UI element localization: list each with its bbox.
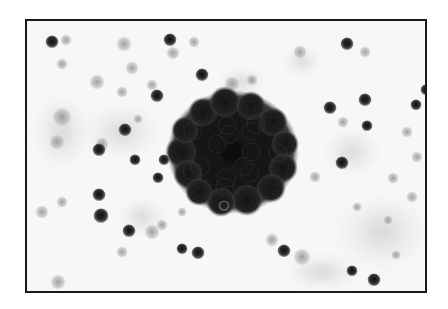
micrograph-frame	[25, 19, 427, 293]
micrograph-image	[27, 21, 427, 293]
cell-cluster	[165, 86, 299, 217]
